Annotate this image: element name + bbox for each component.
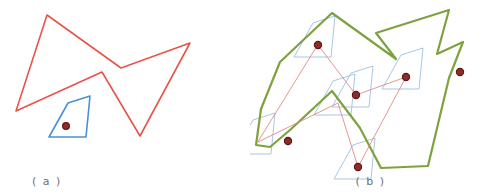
vertex-dot-2 bbox=[352, 91, 359, 98]
figure-root: ( a ) ( b ) bbox=[0, 0, 501, 196]
vertex-dot-3 bbox=[402, 73, 409, 80]
vertex-dot-6 bbox=[284, 137, 291, 144]
panel-a: ( a ) bbox=[0, 0, 250, 196]
blue-copy-6 bbox=[250, 113, 275, 154]
blue-quadrilateral bbox=[49, 96, 90, 137]
panel-b: ( b ) bbox=[250, 0, 501, 196]
vertex-dot-5 bbox=[456, 68, 463, 75]
panel-a-caption: ( a ) bbox=[0, 175, 172, 188]
red-concave-polygon bbox=[16, 15, 190, 136]
panel-b-canvas bbox=[250, 0, 501, 196]
panel-a-canvas bbox=[0, 0, 250, 196]
vertex-dot-1 bbox=[314, 41, 321, 48]
panel-b-caption: ( b ) bbox=[245, 175, 496, 188]
vertex-dot-4 bbox=[354, 163, 361, 170]
reference-point bbox=[63, 123, 70, 130]
